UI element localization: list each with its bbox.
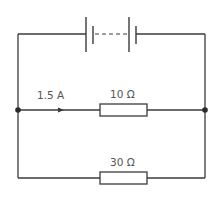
upper-branch: 1.5 A 10 Ω (18, 88, 205, 116)
resistor-10-ohm-label: 10 Ω (110, 88, 135, 100)
resistor-10-ohm (100, 104, 147, 116)
current-label: 1.5 A (37, 89, 65, 101)
battery-symbol (86, 17, 136, 52)
current-arrow-icon (58, 108, 64, 113)
junction-left (15, 107, 21, 113)
resistor-30-ohm (100, 172, 147, 184)
circuit-diagram: 1.5 A 10 Ω 30 Ω (0, 0, 216, 197)
junction-right (202, 107, 208, 113)
resistor-30-ohm-label: 30 Ω (110, 156, 135, 168)
lower-branch: 30 Ω (18, 156, 205, 184)
